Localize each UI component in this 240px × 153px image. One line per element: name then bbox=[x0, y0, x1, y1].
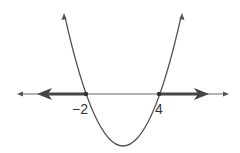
root-point-right bbox=[157, 92, 161, 96]
solution-ray-left bbox=[37, 88, 86, 100]
parabola-diagram: −2 4 bbox=[0, 0, 240, 153]
root-point-left bbox=[84, 92, 88, 96]
solution-ray-right bbox=[159, 88, 209, 100]
curve-arrow-left-icon bbox=[62, 13, 67, 20]
axis-arrow-right-icon bbox=[223, 92, 229, 97]
parabola-curve bbox=[62, 13, 185, 146]
axis-arrow-left-icon bbox=[17, 92, 23, 97]
curve-arrow-right-icon bbox=[180, 13, 185, 20]
label-left-root: −2 bbox=[72, 101, 88, 117]
label-right-root: 4 bbox=[155, 101, 163, 117]
